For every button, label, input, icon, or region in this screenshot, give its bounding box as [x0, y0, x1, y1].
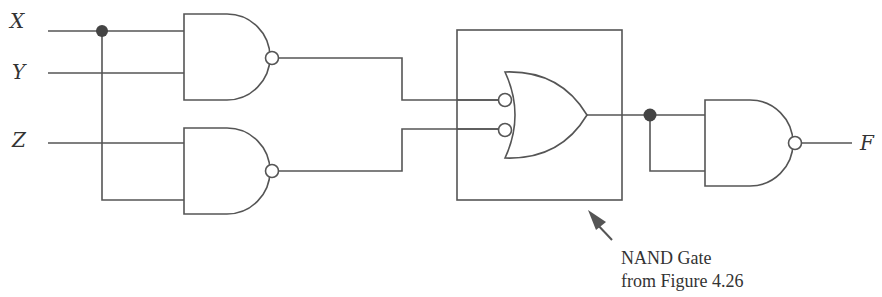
- annotation-arrow: [588, 210, 612, 240]
- inversion-bubble: [499, 94, 512, 107]
- output-label-f: F: [859, 131, 875, 155]
- nand-gate-1: [184, 14, 279, 100]
- annotation-line-2: from Figure 4.26: [621, 271, 743, 291]
- annotation-line-1: NAND Gate: [621, 248, 711, 268]
- nand-gate-2: [184, 128, 279, 214]
- junction-dot-or-output: [644, 109, 657, 122]
- input-label-x: X: [8, 9, 25, 33]
- input-wires: [48, 31, 185, 200]
- inversion-bubble: [499, 124, 512, 137]
- logic-circuit-diagram: X Y Z: [0, 0, 882, 297]
- nand-gate-3: [705, 100, 802, 186]
- or-output-wire: [587, 115, 706, 171]
- inversion-bubble: [266, 52, 279, 65]
- or-gate-inverted-inputs: [499, 72, 588, 158]
- input-label-y: Y: [12, 60, 27, 84]
- cut-off-caption-text: [0, 0, 882, 3]
- input-label-z: Z: [11, 128, 27, 152]
- junction-dot-x: [96, 25, 108, 37]
- inversion-bubble: [789, 137, 802, 150]
- inversion-bubble: [266, 165, 279, 178]
- intermediate-wires: [279, 58, 498, 171]
